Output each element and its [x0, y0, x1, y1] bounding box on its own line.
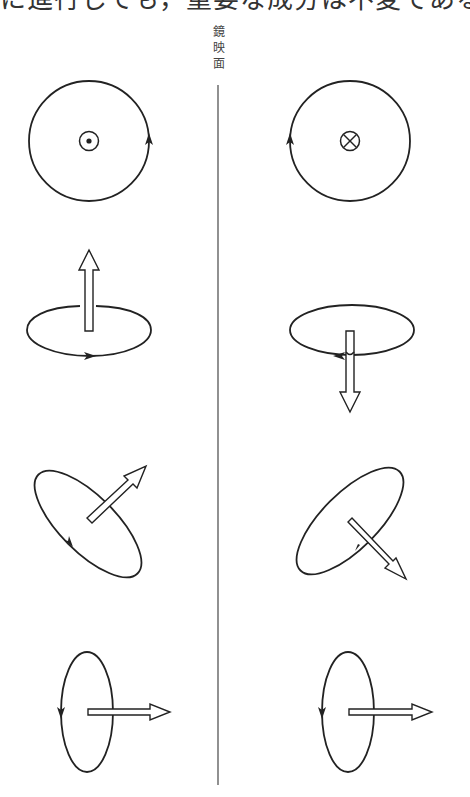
mirror-reflection-diagram [0, 0, 470, 797]
axial-arrow-right-icon [349, 704, 432, 720]
row4-right-loop [318, 652, 432, 772]
axial-arrow-right-icon [88, 704, 170, 720]
into-page-icon [341, 132, 360, 151]
row4-left-loop [57, 652, 170, 772]
row2-right-loop [290, 305, 414, 412]
row2-left-loop [27, 250, 151, 360]
row3-right-loop [281, 452, 420, 591]
row1-left-loop [29, 81, 153, 201]
row3-left-loop [19, 455, 158, 594]
row1-right-loop [286, 81, 410, 201]
axial-arrow-down-icon [340, 331, 360, 412]
axial-arrow-up-icon [79, 250, 99, 331]
